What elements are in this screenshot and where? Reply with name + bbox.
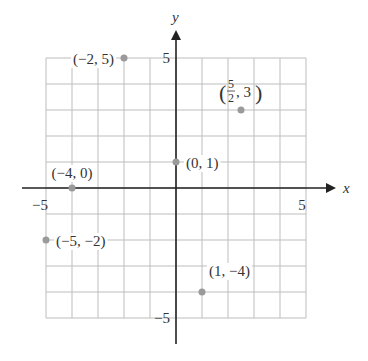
fraction-denominator: 2 [228,91,234,105]
paren-left: ( [219,80,226,105]
point-label: (−2, 5) [73,51,114,68]
point-label: (1, −4) [209,263,250,280]
data-point [43,237,50,244]
data-point [69,185,76,192]
data-point [173,159,180,166]
x-tick-label: 5 [298,197,306,213]
paren-right: ) [255,80,262,105]
x-tick-label: −5 [32,197,48,213]
data-point [121,55,128,62]
coordinate-plane: xy −555−5 (−2, 5)(52, 3)(0, 1)(−4, 0)(−5… [0,0,368,361]
y-axis-label: y [170,9,179,25]
points: (−2, 5)(52, 3)(0, 1)(−4, 0)(−5, −2)(1, −… [43,51,263,296]
data-point [238,107,245,114]
x-axis-label: x [342,180,350,196]
point-label: (52, 3) [219,77,262,105]
fraction-numerator: 5 [228,77,234,91]
data-point [199,289,206,296]
label-rest: , 3 [236,84,251,100]
y-axis-arrow-icon [171,30,181,40]
x-axis-arrow-icon [326,183,336,193]
point-label: (0, 1) [186,155,219,172]
y-tick-label: 5 [163,50,171,66]
y-tick-label: −5 [154,310,170,326]
point-label: (−5, −2) [56,233,105,250]
point-label: (−4, 0) [52,165,93,182]
